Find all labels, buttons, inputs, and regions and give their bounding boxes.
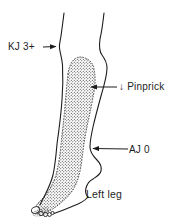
kj-arrow-icon [43,47,56,48]
ankle-jerk-label: AJ 0 [129,144,150,155]
aj-arrow-icon [93,149,128,150]
pinprick-label: ↓ Pinprick [119,81,164,92]
knee-jerk-label: KJ 3+ [8,41,35,52]
leg-caption: Left leg [86,189,122,200]
left-leg-diagram: KJ 3+ ↓ Pinprick AJ 0 Left leg [0,0,177,223]
